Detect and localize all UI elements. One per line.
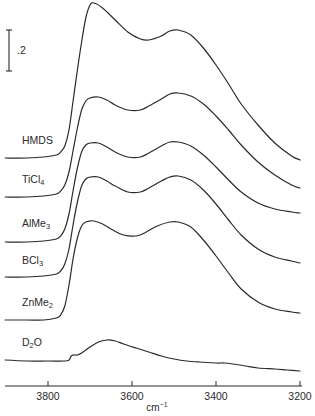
series-label-text: ZnMe [22, 296, 49, 308]
series-label-hmds: HMDS [22, 134, 53, 146]
series-label-text: O [34, 336, 42, 348]
spectra-curves [5, 3, 300, 371]
series-label-alme3: AlMe3 [22, 217, 50, 231]
series-label-subscript: 2 [49, 301, 53, 310]
x-tick-label-3800: 3800 [36, 390, 59, 402]
series-label-ticl4: TiCl4 [22, 173, 44, 187]
series-label-subscript: 3 [46, 222, 50, 231]
spectra-plot [0, 0, 315, 416]
x-tick-label-3400: 3400 [204, 390, 227, 402]
series-label-text: BCl [22, 254, 39, 266]
series-label-znme2: ZnMe2 [22, 296, 53, 310]
x-axis-label-base: cm [146, 402, 159, 413]
x-axis-label-exponent: −1 [160, 401, 168, 408]
x-tick-label-3200: 3200 [288, 390, 311, 402]
series-label-text: TiCl [22, 173, 40, 185]
series-label-subscript: 4 [40, 178, 44, 187]
x-axis-label: cm−1 [146, 401, 167, 413]
scale-bar-label: .2 [17, 44, 26, 56]
absorbance-scale-bar [6, 30, 12, 71]
series-label-text: AlMe [22, 217, 46, 229]
series-label-d2o: D2O [22, 336, 42, 350]
x-axis-ticks [48, 381, 300, 386]
x-tick-label-3600: 3600 [120, 390, 143, 402]
curve-d2o [5, 340, 300, 371]
series-label-text: D [22, 336, 30, 348]
series-label-text: HMDS [22, 134, 53, 146]
series-label-bcl3: BCl3 [22, 254, 43, 268]
series-label-subscript: 3 [39, 259, 43, 268]
